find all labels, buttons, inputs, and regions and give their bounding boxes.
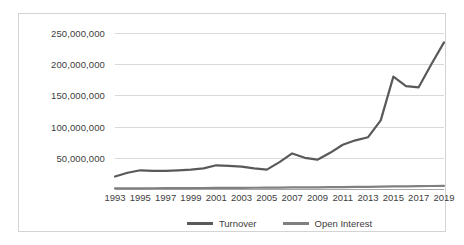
- legend-swatch-icon: [283, 222, 309, 225]
- legend-label: Turnover: [219, 218, 257, 229]
- y-axis-tick-label: 150,000,000: [51, 90, 105, 101]
- x-axis-labels: 1993199519971999200120032005200720092011…: [115, 192, 444, 208]
- x-axis-tick-label: 1997: [155, 192, 176, 203]
- chart-legend: TurnoverOpen Interest: [115, 214, 444, 232]
- x-axis-tick-label: 2013: [357, 192, 378, 203]
- x-axis-tick-label: 2007: [282, 192, 303, 203]
- x-axis-tick-label: 2019: [433, 192, 454, 203]
- x-axis-tick-label: 2017: [408, 192, 429, 203]
- x-axis-tick-label: 2003: [231, 192, 252, 203]
- series-line-open-interest: [115, 186, 444, 189]
- x-axis-tick-label: 2009: [307, 192, 328, 203]
- y-axis-labels: 50,000,000100,000,000150,000,000200,000,…: [37, 33, 111, 189]
- series-lines: [115, 33, 444, 189]
- x-axis-tick-label: 2011: [333, 192, 353, 203]
- x-axis-tick-label: 1995: [130, 192, 151, 203]
- legend-label: Open Interest: [315, 218, 373, 229]
- x-axis-tick-label: 2001: [206, 192, 227, 203]
- legend-item-open-interest[interactable]: Open Interest: [283, 218, 373, 229]
- legend-item-turnover[interactable]: Turnover: [187, 218, 257, 229]
- chart-container: 50,000,000100,000,000150,000,000200,000,…: [18, 13, 446, 232]
- legend-swatch-icon: [187, 222, 213, 225]
- y-axis-tick-label: 100,000,000: [51, 121, 105, 132]
- x-axis-tick-label: 1993: [104, 192, 125, 203]
- x-axis-tick-label: 2005: [256, 192, 277, 203]
- y-axis-tick-label: 200,000,000: [51, 59, 105, 70]
- plot-area: [115, 33, 444, 189]
- x-axis-tick-label: 1999: [180, 192, 201, 203]
- chart-screenshot: 50,000,000100,000,000150,000,000200,000,…: [0, 0, 464, 245]
- x-axis-tick-label: 2015: [383, 192, 404, 203]
- y-axis-tick-label: 50,000,000: [56, 152, 105, 163]
- y-axis-tick-label: 250,000,000: [51, 28, 105, 39]
- series-line-turnover: [115, 42, 444, 176]
